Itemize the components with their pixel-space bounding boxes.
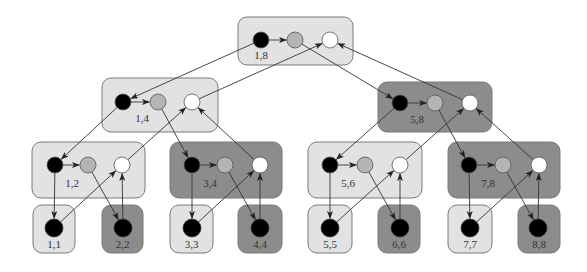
black-vertex-7-8 [461, 157, 477, 173]
leaf-label-7-7: 7,7 [463, 238, 477, 250]
segment-tree-diagram: 1,81,45,81,23,45,67,81,12,23,34,45,56,67… [0, 0, 587, 272]
leaf-vertex-2-2 [114, 219, 132, 237]
white-vertex-1-8 [322, 32, 338, 48]
leaf-vertex-3-3 [183, 219, 201, 237]
leaf-label-5-5: 5,5 [323, 238, 337, 250]
grey-vertex-1-2 [80, 157, 96, 173]
leaf-label-8-8: 8,8 [532, 238, 546, 250]
grey-vertex-1-4 [150, 94, 166, 110]
leaf-label-3-3: 3,3 [185, 238, 199, 250]
grey-vertex-7-8 [495, 157, 511, 173]
black-vertex-5-6 [322, 157, 338, 173]
leaf-vertex-8-8 [529, 219, 547, 237]
white-vertex-7-8 [531, 157, 547, 173]
leaf-vertex-7-7 [461, 219, 479, 237]
black-vertex-1-4 [115, 94, 131, 110]
leaf-label-6-6: 6,6 [392, 238, 406, 250]
leaf-vertex-1-1 [45, 219, 63, 237]
grey-vertex-5-8 [427, 95, 443, 111]
grey-vertex-1-8 [287, 32, 303, 48]
leaf-label-4-4: 4,4 [253, 238, 267, 250]
white-vertex-3-4 [252, 157, 268, 173]
white-vertex-1-4 [184, 94, 200, 110]
node-label-3-4: 3,4 [203, 177, 217, 189]
node-label-1-2: 1,2 [65, 177, 79, 189]
grey-vertex-5-6 [357, 157, 373, 173]
white-vertex-5-8 [462, 95, 478, 111]
leaf-label-1-1: 1,1 [47, 238, 61, 250]
node-label-7-8: 7,8 [481, 177, 495, 189]
black-vertex-1-2 [47, 157, 63, 173]
white-vertex-1-2 [114, 157, 130, 173]
leaf-vertex-4-4 [251, 219, 269, 237]
leaf-label-2-2: 2,2 [116, 238, 130, 250]
node-label-1-8: 1,8 [254, 49, 268, 61]
black-vertex-5-8 [392, 95, 408, 111]
node-label-5-6: 5,6 [341, 177, 355, 189]
node-label-1-4: 1,4 [135, 112, 149, 124]
white-vertex-5-6 [392, 157, 408, 173]
grey-vertex-3-4 [217, 157, 233, 173]
node-label-5-8: 5,8 [410, 113, 424, 125]
leaf-vertex-6-6 [391, 219, 409, 237]
black-vertex-3-4 [184, 157, 200, 173]
leaf-vertex-5-5 [321, 219, 339, 237]
black-vertex-1-8 [253, 32, 269, 48]
